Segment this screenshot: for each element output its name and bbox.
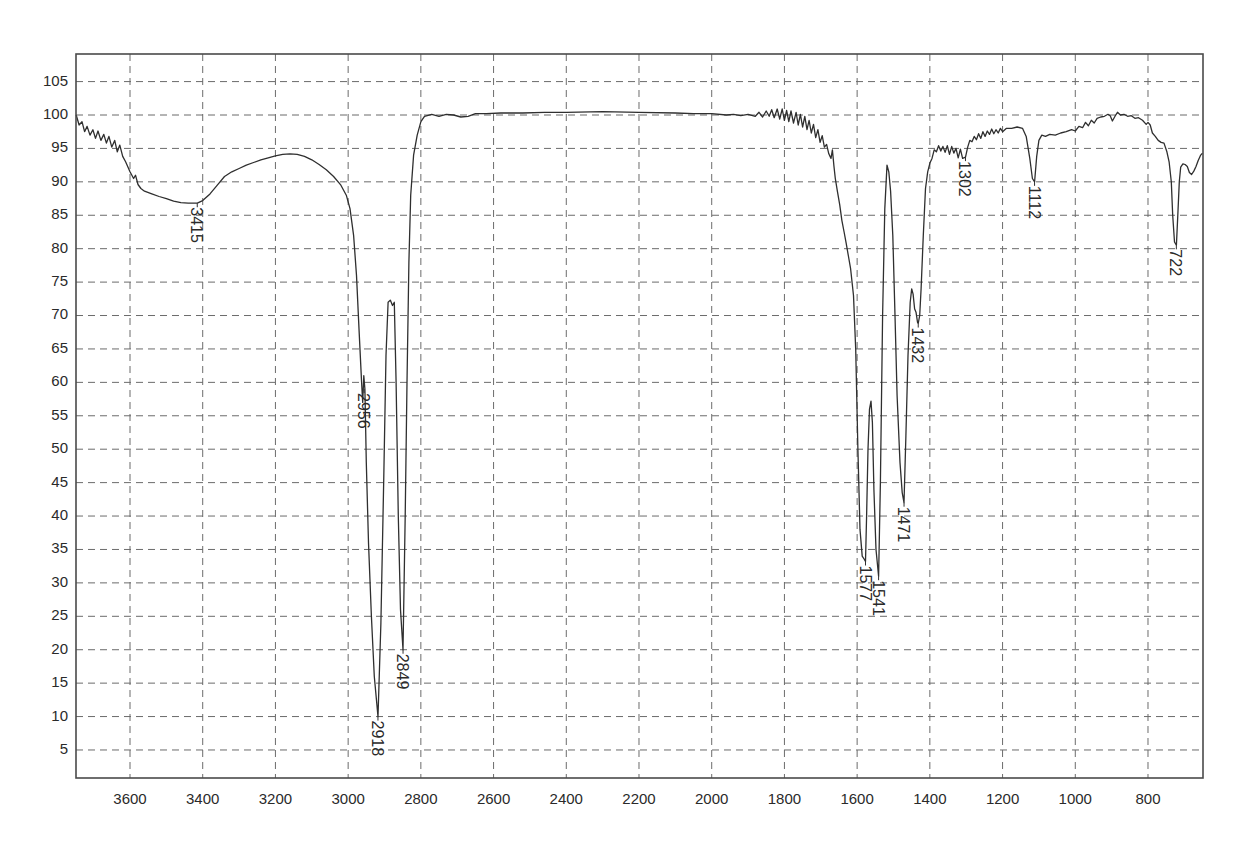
x-tick-label: 3400 [186, 790, 219, 807]
peak-annotation: 722 [1167, 245, 1184, 276]
y-tick-label: 45 [51, 473, 68, 490]
peak-annotation: 2956 [355, 389, 372, 429]
y-tick-label: 15 [51, 673, 68, 690]
peak-label: 3415 [188, 207, 205, 243]
x-tick-label: 2000 [695, 790, 728, 807]
x-tick-label: 2600 [477, 790, 510, 807]
y-tick-label: 85 [51, 205, 68, 222]
peak-annotation: 1471 [895, 503, 912, 543]
y-tick-label: 65 [51, 339, 68, 356]
x-tick-label: 2200 [622, 790, 655, 807]
peak-annotation: 1302 [956, 157, 973, 197]
x-tick-label: 1800 [768, 790, 801, 807]
y-tick-label: 10 [51, 707, 68, 724]
x-tick-label: 1200 [986, 790, 1019, 807]
peak-label: 2956 [355, 393, 372, 429]
y-tick-label: 30 [51, 573, 68, 590]
y-tick-label: 35 [51, 539, 68, 556]
x-tick-label: 3000 [331, 790, 364, 807]
y-axis-ticks: 5101520253035404550556065707580859095100… [43, 72, 68, 757]
peak-label: 2918 [369, 721, 386, 757]
peak-label: 1112 [1026, 186, 1043, 219]
y-tick-label: 40 [51, 506, 68, 523]
y-tick-label: 90 [51, 172, 68, 189]
y-tick-label: 75 [51, 272, 68, 289]
y-tick-label: 95 [51, 138, 68, 155]
y-tick-label: 100 [43, 105, 68, 122]
peak-label: 1541 [870, 580, 887, 616]
x-tick-label: 3200 [259, 790, 292, 807]
y-tick-label: 80 [51, 239, 68, 256]
y-tick-label: 25 [51, 606, 68, 623]
y-tick-label: 20 [51, 640, 68, 657]
x-tick-label: 2800 [404, 790, 437, 807]
peak-label: 1432 [909, 328, 926, 364]
y-tick-label: 5 [60, 740, 68, 757]
ir-spectrum-chart: 5101520253035404550556065707580859095100… [0, 0, 1250, 844]
peak-label: 2849 [394, 654, 411, 690]
peak-annotation: 3415 [188, 203, 205, 243]
peak-annotations: 3415295629182849157715411471143213021112… [188, 157, 1184, 756]
x-tick-label: 800 [1135, 790, 1160, 807]
x-tick-label: 1400 [913, 790, 946, 807]
y-tick-label: 50 [51, 439, 68, 456]
x-tick-label: 1600 [840, 790, 873, 807]
peak-annotation: 2849 [394, 650, 411, 690]
peak-annotation: 2918 [369, 717, 386, 757]
peak-label: 722 [1167, 249, 1184, 276]
x-tick-label: 1000 [1059, 790, 1092, 807]
peak-label: 1302 [956, 161, 973, 197]
y-tick-label: 70 [51, 305, 68, 322]
peak-annotation: 1541 [870, 576, 887, 616]
peak-annotation: 1112 [1026, 182, 1043, 219]
peak-annotation: 1432 [909, 324, 926, 364]
y-tick-label: 105 [43, 72, 68, 89]
y-tick-label: 60 [51, 372, 68, 389]
x-tick-label: 2400 [550, 790, 583, 807]
x-axis-ticks: 3600340032003000280026002400220020001800… [113, 790, 1160, 807]
gridlines [76, 54, 1203, 778]
peak-label: 1471 [895, 507, 912, 543]
y-tick-label: 55 [51, 406, 68, 423]
x-tick-label: 3600 [113, 790, 146, 807]
